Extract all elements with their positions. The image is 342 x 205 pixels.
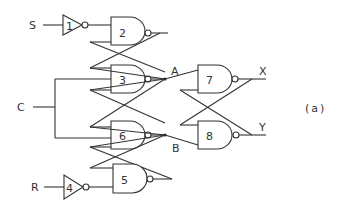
output-label-y: Y bbox=[258, 121, 266, 134]
gate-label-2: 2 bbox=[119, 27, 126, 40]
wire-b-to-g8 bbox=[165, 135, 198, 145]
gate-label-8: 8 bbox=[206, 130, 213, 143]
gate-label-7: 7 bbox=[206, 74, 213, 87]
inverter-gate-4: 4 bbox=[64, 175, 89, 199]
gate-label-4: 4 bbox=[66, 182, 73, 195]
nand-gate-6: 6 bbox=[111, 121, 151, 149]
gate-label-1: 1 bbox=[66, 20, 73, 33]
nand-gate-8: 8 bbox=[198, 121, 239, 149]
nand-gate-7: 7 bbox=[198, 65, 238, 93]
circuit-svg: S 1 2 C 3 A 6 bbox=[0, 0, 342, 205]
output-label-x: X bbox=[259, 65, 267, 78]
wire-cross-3-6a bbox=[90, 90, 165, 123]
gate-label-5: 5 bbox=[121, 174, 128, 187]
figure-label: (a) bbox=[305, 102, 326, 115]
wire-a-to-g7 bbox=[165, 70, 198, 79]
nand-gate-3: 3 bbox=[111, 65, 151, 93]
input-label-c: C bbox=[17, 101, 25, 114]
node-label-b: B bbox=[172, 142, 180, 155]
input-label-r: R bbox=[31, 181, 39, 194]
logic-circuit-diagram: S 1 2 C 3 A 6 bbox=[0, 0, 342, 205]
inverter-gate-1: 1 bbox=[63, 15, 88, 35]
input-label-s: S bbox=[29, 19, 36, 32]
nand-gate-5: 5 bbox=[113, 164, 153, 193]
